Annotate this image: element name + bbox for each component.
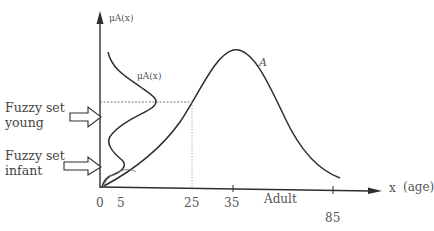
y-axis-label: μA(x)	[109, 13, 133, 23]
label-young-line2: young	[5, 115, 65, 130]
x-axis-label: x	[389, 181, 396, 195]
x-unit-label: (age)	[403, 180, 434, 194]
label-young-line1: Fuzzy set	[5, 100, 65, 115]
arrow-young-icon	[70, 107, 101, 127]
x-axis-arrow-icon	[368, 188, 382, 195]
label-fuzzy-set-young: Fuzzy set young	[5, 100, 65, 130]
tick-label-25: 25	[184, 196, 199, 210]
inner-curve-label: μA(x)	[137, 71, 161, 81]
tick-label-35: 35	[224, 196, 239, 210]
fuzzy-set-diagram	[0, 0, 434, 231]
region-label-adult: Adult	[264, 192, 297, 206]
arrow-infant-icon	[64, 157, 101, 175]
y-axis-arrow-icon	[97, 11, 104, 24]
label-fuzzy-set-infant: Fuzzy set infant	[5, 148, 65, 178]
label-infant-line2: infant	[5, 163, 65, 178]
x-axis	[100, 187, 372, 191]
label-infant-line1: Fuzzy set	[5, 148, 65, 163]
tick-label-85: 85	[325, 211, 340, 225]
tick-label-0: 0	[96, 196, 104, 210]
curve-label-A: A	[259, 56, 267, 69]
tick-label-5: 5	[117, 196, 125, 210]
